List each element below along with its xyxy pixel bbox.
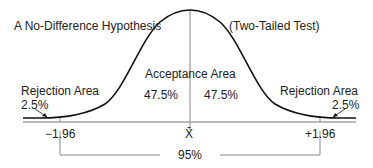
rejection-left-pct: 2.5% [21, 99, 48, 112]
test-type-title: (Two-Tailed Test) [229, 20, 319, 33]
left-arrowhead-icon [42, 113, 47, 117]
confidence-label: 95% [178, 149, 202, 162]
mean-label: X̄ [185, 128, 193, 141]
right-arrowhead-icon [333, 113, 338, 117]
rejection-left-label: Rejection Area [21, 85, 99, 98]
rejection-right-pct: 2.5% [332, 99, 359, 112]
left-critical-value: −1.96 [45, 128, 75, 141]
acceptance-right-pct: 47.5% [204, 89, 238, 102]
rejection-right-label: Rejection Area [280, 85, 358, 98]
right-critical-value: +1.96 [305, 128, 335, 141]
acceptance-left-pct: 47.5% [144, 89, 178, 102]
hypothesis-title: A No-Difference Hypothesis [14, 20, 161, 33]
normal-distribution-diagram: A No-Difference Hypothesis (Two-Tailed T… [0, 0, 373, 168]
acceptance-area-label: Acceptance Area [145, 68, 236, 81]
